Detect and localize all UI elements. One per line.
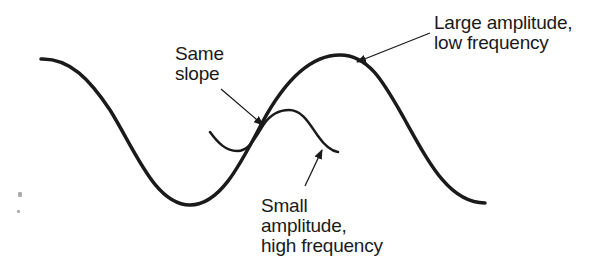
large-wave-label: Large amplitude, low frequency [434,13,572,53]
same-slope-label: Same slope [175,44,224,84]
scan-artifact [17,210,20,213]
same-slope-arrow [221,89,263,125]
small-wave-label-line-2: amplitude, [261,216,383,236]
scan-artifact [18,192,22,197]
small-wave-label: Small amplitude, high frequency [261,196,383,256]
large-amplitude-wave [41,55,485,205]
small-wave-label-line-3: high frequency [261,236,383,256]
diagram-canvas: Same slope Large amplitude, low frequenc… [0,0,611,279]
large-wave-label-line-2: low frequency [434,33,572,53]
same-slope-label-line-2: slope [175,64,224,84]
large-wave-arrow [357,33,430,62]
small-amplitude-wave [210,110,338,152]
small-wave-arrow [305,150,322,186]
large-wave-label-line-1: Large amplitude, [434,13,572,33]
same-slope-label-line-1: Same [175,44,224,64]
small-wave-label-line-1: Small [261,196,383,216]
